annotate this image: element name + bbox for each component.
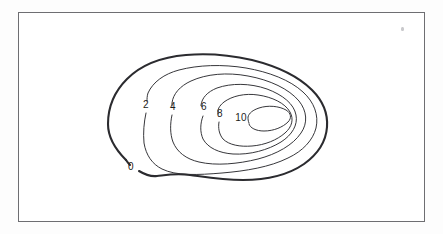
page-speck-artifact [401, 27, 404, 31]
contour-label-2: 2 [143, 100, 149, 110]
contour-line-level-8 [218, 94, 292, 146]
contour-label-8: 8 [217, 109, 223, 119]
contour-figure: 0 2 4 6 8 10 [0, 0, 443, 234]
contour-label-6: 6 [201, 102, 207, 112]
contour-line-level-2 [144, 66, 317, 175]
contour-label-0: 0 [128, 162, 134, 172]
contour-label-4: 4 [170, 102, 176, 112]
contour-line-level-10 [248, 106, 290, 131]
contour-label-10: 10 [235, 113, 247, 123]
